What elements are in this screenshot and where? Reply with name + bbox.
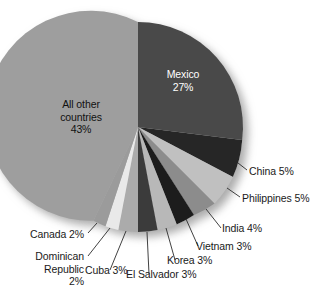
pie-label-korea: Korea 3% (167, 254, 212, 267)
pie-label-mexico-value: 27% (173, 81, 194, 93)
pie-label-canada: Canada 2% (12, 228, 84, 241)
pie-chart-figure: Mexico 27% All other countries 43% China… (0, 0, 329, 302)
pie-slices-group (0, 11, 243, 232)
pie-label-all-other-countries-value: 43% (71, 123, 92, 135)
pie-label-dominican-republic-line2: Republic (44, 263, 84, 275)
pie-label-mexico-name: Mexico (167, 68, 200, 80)
pie-label-dominican-republic-value: 2% (69, 275, 84, 287)
pie-label-all-other-countries-line1: All other (62, 98, 100, 110)
leader-line-philippines (227, 188, 240, 197)
pie-label-india: India 4% (222, 222, 262, 235)
pie-label-philippines: Philippines 5% (242, 192, 309, 205)
pie-label-cuba: Cuba 3% (85, 264, 128, 277)
leader-line-canada (88, 223, 97, 233)
pie-label-vietnam: Vietnam 3% (196, 240, 251, 253)
pie-label-dominican-republic-line1: Dominican (35, 250, 84, 262)
pie-label-mexico: Mexico 27% (151, 68, 215, 93)
pie-label-dominican-republic: Dominican Republic 2% (12, 250, 84, 288)
pie-label-china: China 5% (249, 165, 294, 178)
leader-line-dominican-republic (88, 228, 110, 256)
pie-label-all-other-countries: All other countries 43% (44, 98, 118, 136)
leader-line-india (206, 209, 221, 228)
pie-label-el-salvador: El Salvador 3% (126, 268, 196, 281)
pie-label-all-other-countries-line2: countries (60, 111, 102, 123)
leader-line-china (238, 163, 247, 170)
